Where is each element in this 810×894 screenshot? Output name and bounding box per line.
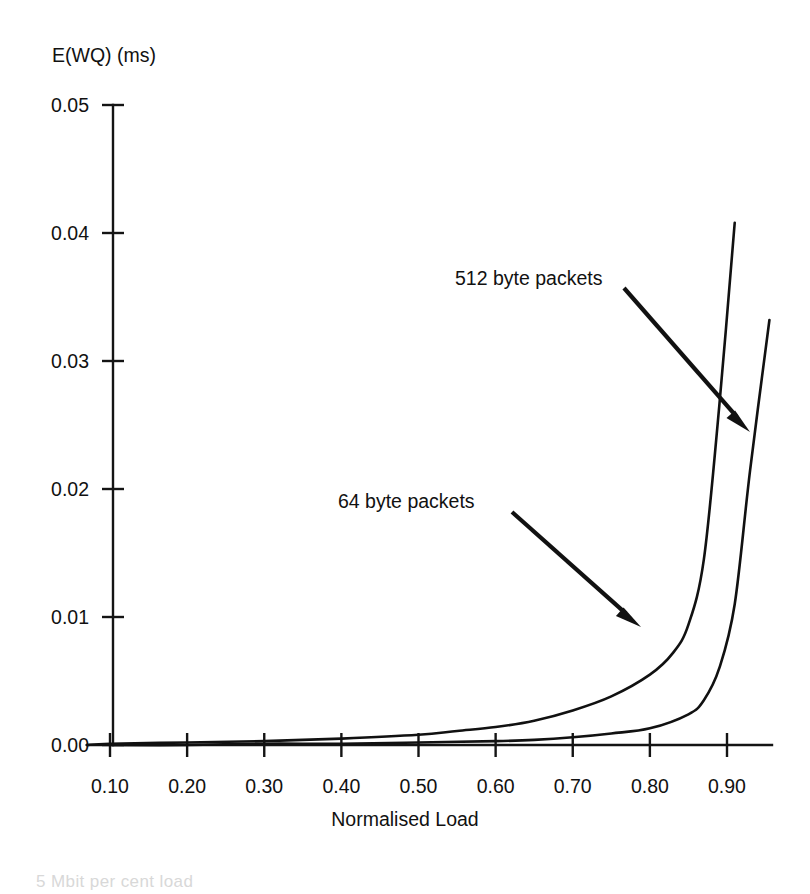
figure-container: E(WQ) (ms) 0.000.010.020.030.040.05 0.10… <box>0 0 810 894</box>
x-tick-label: 0.10 <box>91 775 129 797</box>
y-tick-label: 0.02 <box>51 478 89 500</box>
annotation-label: 64 byte packets <box>338 490 475 512</box>
x-tick-label: 0.30 <box>245 775 283 797</box>
series-line-512-byte-packets <box>87 320 770 745</box>
x-tick-label: 0.50 <box>400 775 438 797</box>
annotation-leader-line <box>624 288 737 417</box>
data-series-group <box>87 223 770 745</box>
x-tick-label: 0.70 <box>554 775 592 797</box>
x-tick-label: 0.60 <box>477 775 515 797</box>
annotation-label: 512 byte packets <box>455 267 603 289</box>
annotation-arrow-head <box>726 410 750 432</box>
y-tick-label: 0.04 <box>51 222 89 244</box>
x-axis-title: Normalised Load <box>331 808 478 830</box>
y-axis-title: E(WQ) (ms) <box>52 44 156 66</box>
annotation-leader-line <box>512 512 626 614</box>
x-tick-label: 0.40 <box>322 775 360 797</box>
y-tick-label: 0.03 <box>51 350 89 372</box>
chart-axes <box>113 105 772 745</box>
x-tick-label: 0.20 <box>168 775 206 797</box>
x-tick-label: 0.80 <box>631 775 669 797</box>
y-tick-label: 0.01 <box>51 606 89 628</box>
figure-caption-partial: 5 Mbit per cent load <box>36 872 193 892</box>
line-chart: E(WQ) (ms) 0.000.010.020.030.040.05 0.10… <box>0 0 810 894</box>
x-tick-label: 0.90 <box>708 775 746 797</box>
y-tick-label: 0.00 <box>51 734 89 756</box>
annotation-group: 512 byte packets64 byte packets <box>338 267 750 627</box>
y-tick-label: 0.05 <box>51 94 89 116</box>
